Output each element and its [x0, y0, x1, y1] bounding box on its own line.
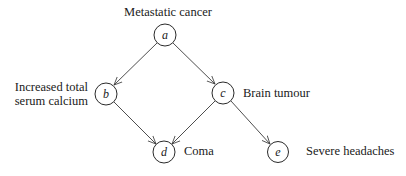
- edge-a-b: [114, 43, 157, 85]
- node-b-label-line2: serum calcium: [15, 94, 89, 108]
- node-b-label-line1: Increased total: [15, 80, 89, 94]
- node-d-letter: d: [161, 145, 168, 159]
- edge-c-d: [172, 101, 215, 144]
- node-a-letter: a: [162, 28, 168, 42]
- node-a-label: Metastatic cancer: [124, 5, 213, 19]
- node-c-label: Brain tumour: [243, 86, 311, 100]
- node-c: c Brain tumour: [212, 82, 311, 104]
- edge-b-d: [114, 102, 156, 144]
- node-d: d Coma: [153, 141, 214, 163]
- node-d-label: Coma: [184, 144, 214, 158]
- node-e: e Severe headaches: [268, 142, 395, 163]
- bayesian-network-diagram: a Metastatic cancer b Increased total se…: [0, 0, 406, 176]
- node-a: a Metastatic cancer: [124, 5, 213, 46]
- edge-c-e: [231, 101, 270, 144]
- edge-a-c: [173, 43, 215, 84]
- node-c-letter: c: [220, 86, 226, 100]
- node-b-letter: b: [103, 87, 109, 101]
- node-e-label: Severe headaches: [306, 144, 395, 158]
- node-b: b Increased total serum calcium: [15, 80, 117, 108]
- node-e-letter: e: [275, 145, 281, 159]
